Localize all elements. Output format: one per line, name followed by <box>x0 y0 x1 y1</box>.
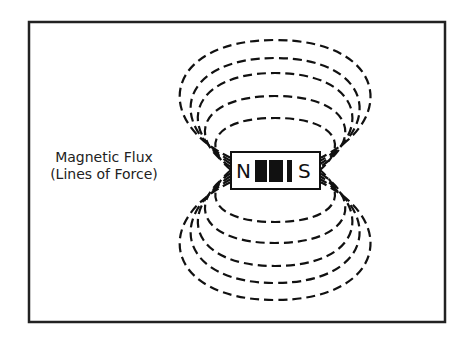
flux-label-line1: Magnetic Flux <box>34 149 174 166</box>
south-pole-label: S <box>298 161 311 181</box>
flux-label: Magnetic Flux (Lines of Force) <box>34 149 174 183</box>
flux-label-line2: (Lines of Force) <box>34 166 174 183</box>
north-pole-label: N <box>236 161 251 181</box>
